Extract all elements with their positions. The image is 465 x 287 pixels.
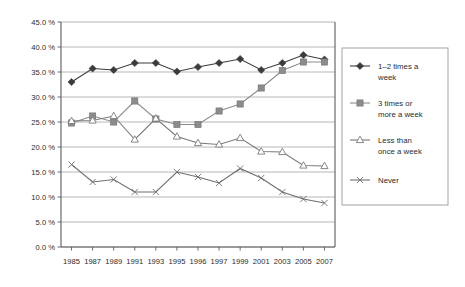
data-point-marker [300,162,307,168]
y-axis-tick-label: 40.0 % [31,43,55,52]
x-axis-tick-label: 2005 [295,257,312,266]
data-point-marker [194,63,201,70]
data-point-marker [356,62,363,69]
data-point-marker [110,112,117,118]
y-axis-tick-label: 20.0 % [31,143,55,152]
x-axis-tick-label: 1991 [126,257,143,266]
data-point-marker [131,59,138,66]
line-chart: 0.0 %5.0 %10.0 %15.0 %20.0 %25.0 %30.0 %… [0,0,465,287]
data-point-marker [279,189,285,195]
y-axis-tick-label: 0.0 % [36,243,56,252]
data-point-marker [68,78,75,85]
data-point-marker [173,68,180,75]
legend-label: 3 times or [378,99,413,108]
legend-item-3[interactable]: Less thanonce a week [350,136,422,156]
legend-label: 1–2 times a [378,62,419,71]
data-point-marker [258,85,264,91]
x-axis-tick-label: 2001 [253,257,270,266]
series-4 [68,161,327,206]
series-3 [68,112,328,168]
data-point-marker [258,148,265,154]
data-point-marker [152,59,159,66]
data-point-marker [356,136,363,142]
x-axis-tick-label: 1989 [105,257,122,266]
x-axis-tick-label: 1997 [211,257,228,266]
data-point-marker [216,180,222,186]
legend-label-line2: week [377,73,396,82]
data-point-marker [237,55,244,62]
x-axis-tick-label: 1999 [232,257,249,266]
x-axis-tick-label: 1987 [84,257,101,266]
data-point-marker [279,67,285,73]
x-axis-tick-label: 2003 [274,257,291,266]
y-axis-tick-label: 5.0 % [36,218,56,227]
data-point-marker [300,59,306,65]
data-point-marker [237,165,243,171]
data-point-marker [321,59,327,65]
data-point-marker [237,101,243,107]
data-point-marker [237,134,244,140]
data-point-marker [132,98,138,104]
x-axis-tick-label: 1996 [190,257,207,266]
y-axis-tick-label: 30.0 % [31,93,55,102]
data-point-marker [111,119,117,125]
data-point-marker [68,161,74,167]
legend-label-line2: more a week [378,110,423,119]
x-axis-tick-label: 2007 [316,257,333,266]
data-point-marker [258,66,265,73]
y-axis-tick-label: 45.0 % [31,18,55,27]
data-point-marker [195,121,201,127]
series-line [72,62,325,125]
y-axis-tick-label: 10.0 % [31,193,55,202]
data-point-marker [300,51,307,58]
legend-item-1[interactable]: 1–2 times aweek [350,62,419,82]
y-axis-tick-label: 25.0 % [31,118,55,127]
y-axis-tick-label: 35.0 % [31,68,55,77]
x-axis-tick-label: 1993 [147,257,164,266]
data-point-marker [357,100,363,106]
data-point-marker [174,121,180,127]
legend-label-line2: once a week [378,147,422,156]
legend-item-4[interactable]: Never [350,176,399,185]
legend-label: Less than [378,136,412,145]
data-point-marker [258,175,264,181]
data-point-marker [215,59,222,66]
data-point-marker [110,66,117,73]
data-point-marker [216,108,222,114]
data-point-marker [89,65,96,72]
chart-figure: 0.0 %5.0 %10.0 %15.0 %20.0 %25.0 %30.0 %… [0,0,465,287]
data-point-marker [279,59,286,66]
series-1 [68,51,328,85]
legend-item-2[interactable]: 3 times ormore a week [350,99,423,119]
legend-label: Never [378,176,399,185]
x-axis-tick-label: 1985 [63,257,80,266]
y-axis-tick-label: 15.0 % [31,168,55,177]
x-axis-tick-label: 1995 [168,257,185,266]
